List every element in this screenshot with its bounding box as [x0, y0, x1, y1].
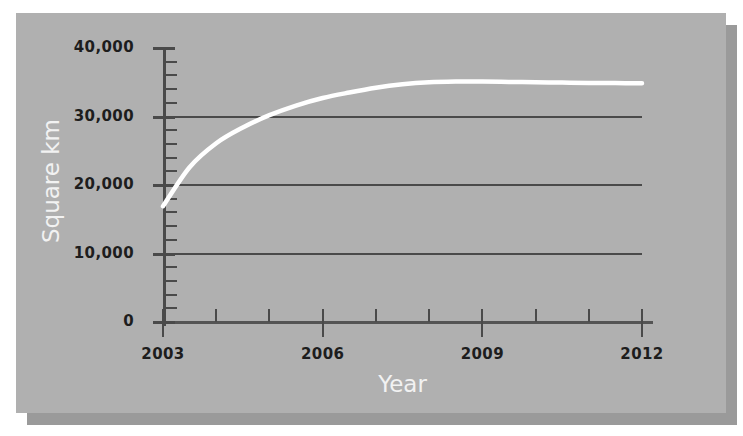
y-tick-minor-36000: [166, 74, 177, 76]
y-tick-minor-4000: [166, 294, 177, 296]
y-tick-minor-12000: [166, 239, 177, 241]
x-tick-label-2006: 2006: [301, 345, 344, 363]
y-tick-major-30000: [153, 116, 175, 119]
y-tick-minor-18000: [166, 198, 177, 200]
y-tick-major-10000: [153, 253, 175, 256]
y-axis-title: Square km: [38, 96, 64, 266]
y-tick-label-10000: 10,000: [74, 244, 134, 262]
x-tick-minor-2004: [215, 309, 217, 322]
y-tick-minor-38000: [166, 61, 177, 63]
figure-panel: 010,00020,00030,00040,000 20032006200920…: [16, 13, 726, 413]
y-tick-minor-8000: [166, 266, 177, 268]
gridline-20000: [163, 184, 642, 186]
y-tick-label-0: 0: [123, 312, 134, 330]
x-tick-minor-2010: [535, 309, 537, 322]
x-tick-minor-2011: [588, 309, 590, 322]
y-tick-label-20000: 20,000: [74, 175, 134, 193]
y-tick-minor-14000: [166, 225, 177, 227]
y-tick-minor-26000: [166, 143, 177, 145]
y-tick-label-40000: 40,000: [74, 38, 134, 56]
y-tick-minor-24000: [166, 157, 177, 159]
y-tick-minor-6000: [166, 280, 177, 282]
x-tick-major-2006: [322, 309, 324, 337]
series-line-square-km: [163, 82, 642, 207]
gridline-30000: [163, 116, 642, 118]
x-tick-major-2003: [162, 309, 164, 337]
x-tick-label-2012: 2012: [620, 345, 663, 363]
y-tick-minor-22000: [166, 170, 177, 172]
x-tick-major-2012: [641, 309, 643, 337]
x-tick-major-2009: [481, 309, 483, 337]
y-tick-major-0: [153, 321, 175, 324]
y-tick-minor-28000: [166, 129, 177, 131]
y-tick-major-40000: [153, 47, 175, 50]
x-tick-minor-2008: [428, 309, 430, 322]
y-tick-minor-32000: [166, 102, 177, 104]
x-axis-line: [163, 321, 653, 324]
x-tick-minor-2005: [268, 309, 270, 322]
y-tick-major-20000: [153, 184, 175, 187]
x-tick-label-2003: 2003: [141, 345, 184, 363]
plot-area: 010,00020,00030,00040,000 20032006200920…: [16, 13, 726, 413]
y-tick-minor-16000: [166, 211, 177, 213]
y-tick-minor-34000: [166, 88, 177, 90]
chart-stage: 010,00020,00030,00040,000 20032006200920…: [0, 0, 743, 436]
y-tick-minor-2000: [166, 307, 177, 309]
x-axis-title: Year: [163, 371, 642, 397]
gridline-10000: [163, 253, 642, 255]
x-tick-minor-2007: [375, 309, 377, 322]
y-tick-label-30000: 30,000: [74, 107, 134, 125]
x-tick-label-2009: 2009: [461, 345, 504, 363]
